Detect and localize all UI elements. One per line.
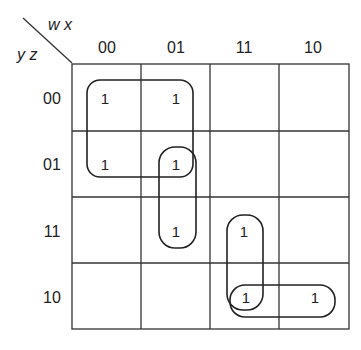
row-variables-label: y z	[16, 46, 37, 63]
cell-value: 1	[101, 90, 109, 107]
column-header: 11	[236, 39, 253, 56]
row-header: 00	[43, 90, 61, 107]
row-header: 10	[43, 289, 61, 306]
column-header: 01	[167, 39, 185, 56]
row-header: 11	[44, 223, 61, 240]
cell-value: 1	[101, 156, 109, 173]
cell-value: 1	[311, 289, 319, 306]
column-header: 00	[98, 39, 116, 56]
cell-value: 1	[242, 289, 250, 306]
map-grid	[72, 64, 349, 329]
cell-value: 1	[172, 223, 180, 240]
column-header: 10	[304, 39, 322, 56]
column-variables-label: w x	[48, 16, 73, 33]
row-header: 01	[43, 156, 61, 173]
cell-value: 1	[240, 223, 248, 240]
karnaugh-map: w x y z 00 01 11 10 00 01 11 10 1 1 1 1 …	[0, 0, 361, 350]
cell-value: 1	[172, 90, 180, 107]
cell-value: 1	[172, 156, 180, 173]
